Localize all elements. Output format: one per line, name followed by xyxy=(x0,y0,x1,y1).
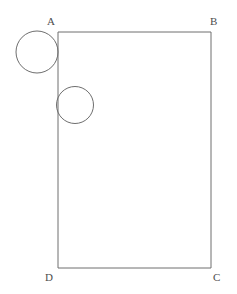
vertex-label-d: D xyxy=(45,271,53,283)
vertex-label-a: A xyxy=(47,15,55,27)
vertex-label-c: C xyxy=(213,271,220,283)
figure-canvas: A B C D xyxy=(0,0,237,294)
vertex-label-b: B xyxy=(210,15,217,27)
geometry-figure: A B C D xyxy=(0,0,237,294)
figure-background xyxy=(0,0,237,294)
